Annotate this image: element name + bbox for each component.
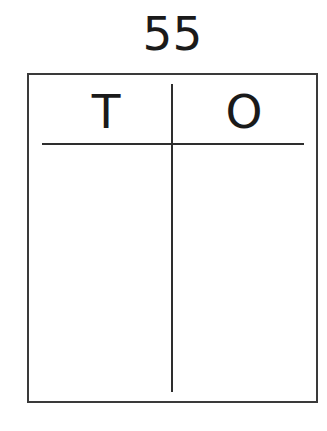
column-header-tens: T xyxy=(56,88,156,136)
header-divider-line xyxy=(42,143,304,145)
column-header-ones: O xyxy=(194,88,294,136)
number-label: 55 xyxy=(0,8,327,60)
column-divider-line xyxy=(171,84,173,392)
